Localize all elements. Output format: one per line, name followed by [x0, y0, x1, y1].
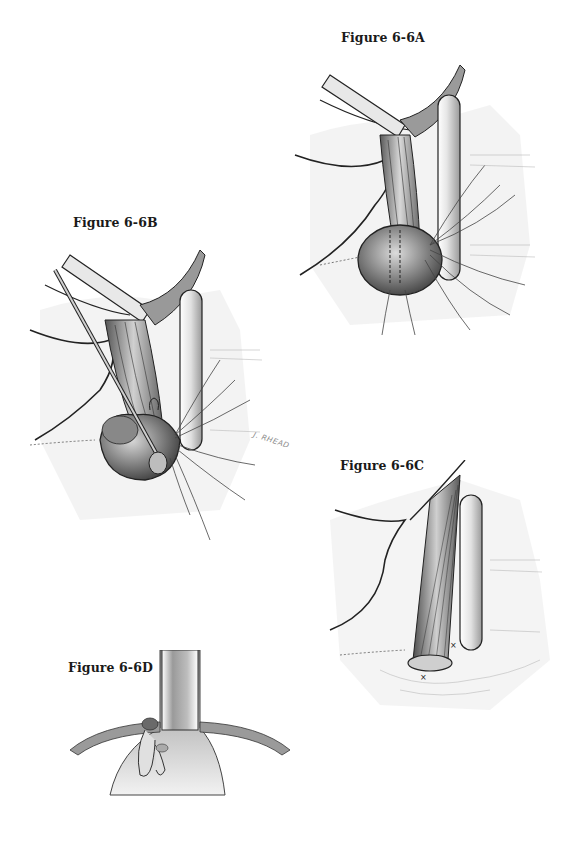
figure-6-6b-illustration	[20, 240, 280, 550]
svg-text:×: ×	[420, 673, 427, 682]
figure-6-6a-illustration	[290, 45, 550, 335]
figure-6-6d-illustration	[60, 650, 300, 800]
figure-label-6-6a: Figure 6-6A	[341, 30, 425, 45]
svg-text:×: ×	[450, 641, 457, 650]
illustration-plate: Figure 6-6A	[0, 0, 576, 841]
figure-label-6-6b: Figure 6-6B	[73, 215, 158, 230]
figure-6-6c-illustration: × ×	[320, 460, 560, 730]
